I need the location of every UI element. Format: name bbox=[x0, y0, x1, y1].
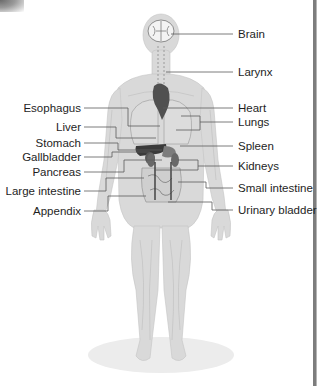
label-kidneys: Kidneys bbox=[238, 160, 279, 172]
label-larynx: Larynx bbox=[238, 66, 273, 78]
kidney-right bbox=[171, 153, 179, 167]
label-spleen: Spleen bbox=[238, 140, 274, 152]
intestines-organ bbox=[142, 162, 182, 202]
label-pancreas: Pancreas bbox=[32, 166, 81, 178]
label-urinary-bladder: Urinary bladder bbox=[238, 204, 317, 216]
floor-shadow bbox=[88, 337, 234, 373]
label-liver: Liver bbox=[56, 121, 81, 133]
label-heart: Heart bbox=[238, 102, 266, 114]
label-small-intestine: Small intestine bbox=[238, 182, 313, 194]
label-brain: Brain bbox=[238, 28, 265, 40]
label-stomach: Stomach bbox=[36, 137, 81, 149]
label-esophagus: Esophagus bbox=[23, 102, 81, 114]
label-lungs: Lungs bbox=[238, 116, 269, 128]
label-large-intestine: Large intestine bbox=[6, 185, 81, 197]
label-gallbladder: Gallbladder bbox=[22, 151, 81, 163]
label-appendix: Appendix bbox=[33, 205, 81, 217]
brain-organ bbox=[148, 20, 174, 42]
